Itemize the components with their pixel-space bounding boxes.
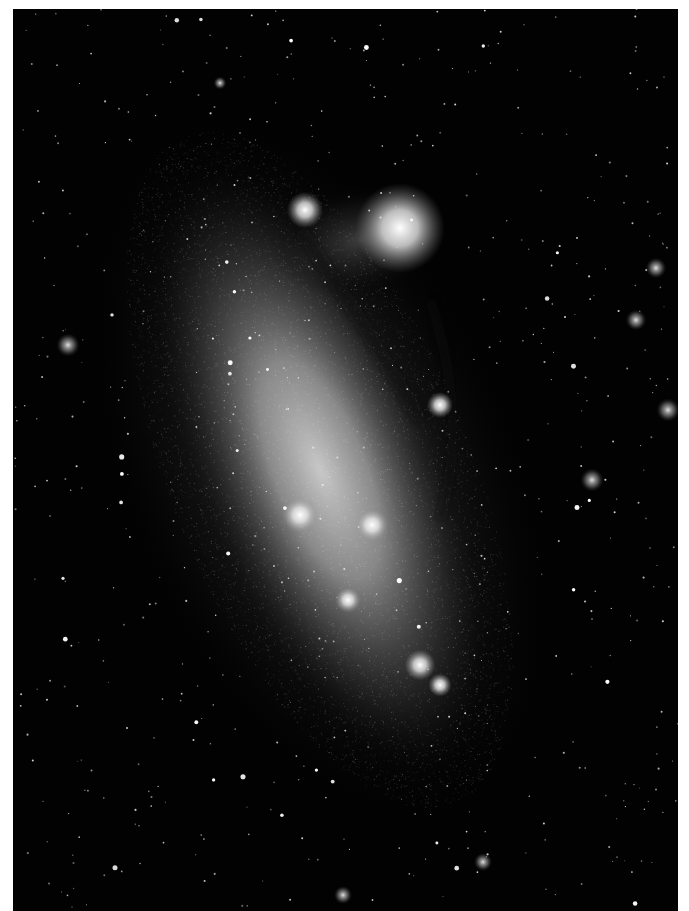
nebula-knot-1 [287,192,323,228]
outer-cluster-4 [580,468,603,491]
galaxy-render [13,9,678,911]
nebula-knot-7 [428,673,451,696]
outer-cluster-6 [214,77,227,90]
nebula-knot-6 [404,649,435,680]
nebula-knot-3 [282,497,318,533]
galaxy-photograph [13,9,678,911]
outer-cluster-8 [334,886,352,904]
northern-nebula-complex [355,183,445,273]
outer-cluster-7 [474,853,492,871]
outer-cluster-2 [626,310,647,331]
nebula-knot-4 [355,508,389,542]
outer-cluster-5 [56,333,79,356]
outer-cluster-3 [656,398,678,421]
nebula-knot-5 [335,587,361,613]
nebula-knot-2 [427,392,453,418]
outer-cluster-1 [646,258,667,279]
